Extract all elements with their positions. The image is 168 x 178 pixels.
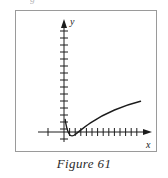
figure-caption: Figure 61 <box>0 156 168 172</box>
horizontal-axis <box>38 128 152 136</box>
vertical-axis <box>60 19 68 142</box>
plot-frame-border: x y <box>15 10 157 152</box>
x-axis-label: x <box>145 139 151 150</box>
figure-61: x y Figure 61 <box>0 0 168 178</box>
y-axis-label: y <box>69 16 75 27</box>
arrow-up-icon <box>61 19 67 28</box>
arrow-right-icon <box>143 129 152 135</box>
plot-canvas: x y <box>16 11 158 153</box>
